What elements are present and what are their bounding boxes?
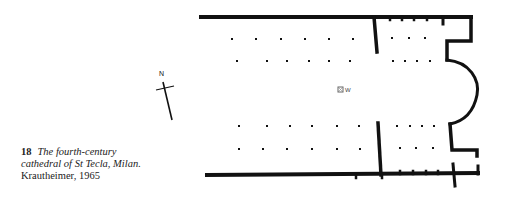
column-pier [391, 37, 393, 39]
column-pier [408, 37, 410, 39]
south-divider-wall [378, 123, 381, 175]
figure-caption: 18The fourth-century cathedral of St Tec… [21, 146, 196, 182]
column-pier [416, 60, 418, 62]
column-pier [358, 125, 360, 127]
figure-title-line1: The fourth-century [38, 146, 117, 157]
column-pier [289, 125, 291, 127]
column-pier [286, 148, 288, 150]
column-pier [304, 38, 306, 40]
column-pier [336, 125, 338, 127]
column-pier [231, 38, 233, 40]
north-arrow-icon: N [156, 70, 174, 120]
column-pier [255, 38, 257, 40]
north-divider-wall [374, 17, 377, 52]
column-pier [238, 148, 240, 150]
column-pier [424, 37, 426, 39]
column-pier [349, 60, 351, 62]
column-pier [328, 38, 330, 40]
column-pier [266, 60, 268, 62]
south-cross-wall [453, 164, 455, 186]
column-pier [399, 147, 401, 149]
column-pier [308, 60, 310, 62]
south-annex-wall [450, 124, 477, 156]
column-pier [404, 60, 406, 62]
column-pier [262, 148, 264, 150]
column-pier [415, 147, 417, 149]
figure-title-line2: cathedral of St Tecla, Milan. [21, 158, 196, 170]
column-pier [392, 60, 394, 62]
column-pier [336, 148, 338, 150]
column-pier [421, 125, 423, 127]
column-pier [432, 147, 434, 149]
column-pier [429, 60, 431, 62]
walls [201, 17, 478, 186]
well-marker-label: W [345, 87, 351, 93]
column-pier [286, 60, 288, 62]
column-pier [396, 125, 398, 127]
figure-credit: Krautheimer, 1965 [21, 170, 196, 182]
column-grid [231, 37, 435, 150]
north-annex-wall [447, 17, 471, 60]
column-pier [328, 60, 330, 62]
column-pier [311, 125, 313, 127]
column-pier [433, 125, 435, 127]
apse-wall [447, 60, 478, 124]
column-pier [311, 148, 313, 150]
figure-number: 18 [21, 146, 32, 157]
column-pier [409, 125, 411, 127]
column-pier [352, 38, 354, 40]
column-pier [280, 38, 282, 40]
column-pier [359, 148, 361, 150]
north-label: N [159, 70, 164, 77]
column-pier [266, 125, 268, 127]
well-marker: W [338, 87, 351, 93]
column-pier [238, 125, 240, 127]
column-pier [236, 60, 238, 62]
